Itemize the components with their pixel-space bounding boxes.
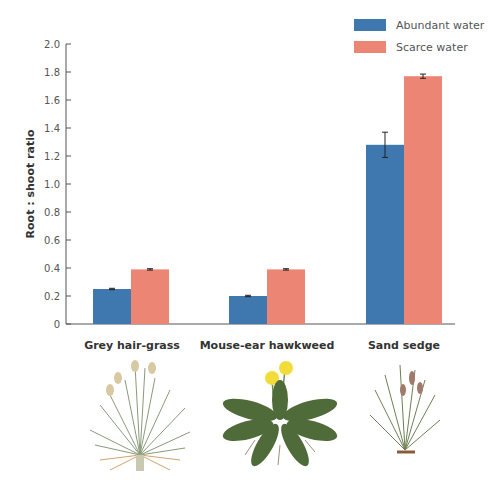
y-tick-label: 1.2: [44, 151, 60, 162]
bar: [404, 76, 442, 324]
legend: Abundant water Scarce water: [354, 14, 484, 58]
legend-swatch-red: [354, 41, 386, 53]
bar: [93, 289, 131, 324]
bar: [229, 296, 267, 324]
legend-item-scarce-water: Scarce water: [354, 36, 484, 58]
category-label-grey-hair-grass: Grey hair-grass: [62, 339, 202, 352]
bar: [366, 145, 404, 324]
y-tick-label: 0.8: [44, 207, 60, 218]
legend-swatch-blue: [354, 19, 386, 31]
legend-item-abundant-water: Abundant water: [354, 14, 484, 36]
category-label-sand-sedge: Sand sedge: [334, 339, 474, 352]
y-tick-label: 1.8: [44, 67, 60, 78]
legend-label: Abundant water: [396, 19, 484, 32]
y-tick-label: 2.0: [44, 39, 60, 50]
y-tick-label: 1.6: [44, 95, 60, 106]
sand-sedge-illustration: [365, 360, 445, 475]
bars: [93, 74, 442, 324]
y-tick-label: 0.4: [44, 263, 60, 274]
grey-hair-grass-illustration: [80, 360, 200, 475]
y-tick-label: 1.4: [44, 123, 60, 134]
category-label-mouse-ear-hawkweed: Mouse-ear hawkweed: [197, 339, 337, 352]
legend-label: Scarce water: [396, 41, 468, 54]
y-tick-label: 0: [54, 319, 60, 330]
y-tick-label: 0.6: [44, 235, 60, 246]
mouse-ear-hawkweed-illustration: [220, 360, 340, 475]
y-tick-label: 0.2: [44, 291, 60, 302]
bar: [131, 269, 169, 324]
y-axis-label: Root : shoot ratio: [24, 129, 37, 238]
y-tick-label: 1.0: [44, 179, 60, 190]
bar: [267, 269, 305, 324]
